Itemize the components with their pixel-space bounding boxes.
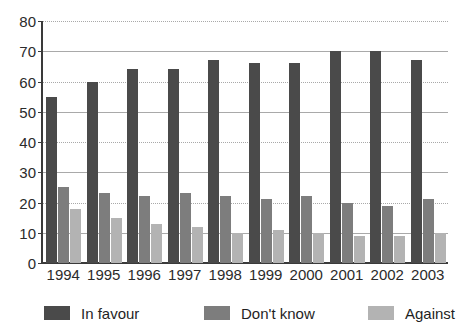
- legend-swatch-against: [368, 306, 394, 320]
- bar-1994-against: [70, 209, 81, 263]
- legend-item-against: Against: [368, 303, 455, 323]
- bar-1998-in-favour: [208, 60, 219, 263]
- x-axis-label-2003: 2003: [406, 266, 450, 284]
- bar-2001-against: [354, 236, 365, 263]
- bar-chart-figure: 01020304050607080 1994199519961997199819…: [0, 0, 463, 334]
- bar-2002-against: [394, 236, 405, 263]
- bar-1999-against: [273, 230, 284, 263]
- bar-2000-against: [313, 233, 324, 263]
- bar-1994-in-favour: [46, 97, 57, 263]
- y-axis-label-50: 50: [2, 104, 36, 119]
- x-axis-label-1997: 1997: [163, 266, 207, 284]
- bar-group-1996: [127, 21, 168, 263]
- x-axis-label-2001: 2001: [325, 266, 369, 284]
- x-axis-labels: 1994199519961997199819992000200120022003: [41, 266, 448, 288]
- legend-item-dont-know: Don't know: [204, 303, 315, 323]
- bar-1999-don-t-know: [261, 199, 272, 263]
- y-axis-label-10: 10: [2, 225, 36, 240]
- y-axis-label-80: 80: [2, 14, 36, 29]
- bar-group-2003: [411, 21, 452, 263]
- x-axis-label-2000: 2000: [284, 266, 328, 284]
- bar-1995-against: [111, 218, 122, 263]
- y-tick-0: [38, 263, 43, 264]
- bar-1999-in-favour: [249, 63, 260, 263]
- bar-group-1994: [46, 21, 87, 263]
- y-axis-label-20: 20: [2, 195, 36, 210]
- bar-1994-don-t-know: [58, 187, 69, 263]
- bar-2002-don-t-know: [382, 206, 393, 263]
- bar-1995-don-t-know: [99, 193, 110, 263]
- chart-legend: In favour Don't know Against: [41, 303, 451, 325]
- bar-1997-don-t-know: [180, 193, 191, 263]
- x-axis-label-1995: 1995: [82, 266, 126, 284]
- bar-1996-against: [151, 224, 162, 263]
- bar-2001-don-t-know: [342, 203, 353, 264]
- y-axis-label-30: 30: [2, 165, 36, 180]
- legend-swatch-dont-know: [204, 306, 230, 320]
- bar-1997-against: [192, 227, 203, 263]
- bar-2003-in-favour: [411, 60, 422, 263]
- bar-group-1998: [208, 21, 249, 263]
- legend-label-dont-know: Don't know: [241, 305, 315, 322]
- y-axis-labels: 01020304050607080: [0, 21, 36, 264]
- x-axis-label-1998: 1998: [203, 266, 247, 284]
- x-axis-label-1999: 1999: [244, 266, 288, 284]
- bar-2003-against: [435, 233, 446, 263]
- bar-1995-in-favour: [87, 82, 98, 264]
- y-axis-label-0: 0: [2, 256, 36, 271]
- y-axis-label-40: 40: [2, 135, 36, 150]
- y-axis-label-60: 60: [2, 74, 36, 89]
- bar-group-1995: [87, 21, 128, 263]
- legend-item-in-favour: In favour: [44, 303, 139, 323]
- bar-1996-don-t-know: [139, 196, 150, 263]
- legend-swatch-in-favour: [44, 306, 70, 320]
- bar-2003-don-t-know: [423, 199, 434, 263]
- bar-2000-in-favour: [289, 63, 300, 263]
- bar-1996-in-favour: [127, 69, 138, 263]
- bar-2002-in-favour: [370, 51, 381, 263]
- bar-2000-don-t-know: [301, 196, 312, 263]
- bar-group-1997: [168, 21, 209, 263]
- bar-group-1999: [249, 21, 290, 263]
- bar-1998-against: [232, 233, 243, 263]
- bar-2001-in-favour: [330, 51, 341, 263]
- bars-layer: [43, 21, 448, 263]
- bar-group-2000: [289, 21, 330, 263]
- legend-label-against: Against: [405, 305, 455, 322]
- y-axis-label-70: 70: [2, 44, 36, 59]
- x-axis-label-2002: 2002: [365, 266, 409, 284]
- x-axis-label-1994: 1994: [41, 266, 85, 284]
- bar-1998-don-t-know: [220, 196, 231, 263]
- bar-group-2002: [370, 21, 411, 263]
- legend-label-in-favour: In favour: [81, 305, 139, 322]
- x-axis-label-1996: 1996: [122, 266, 166, 284]
- bar-1997-in-favour: [168, 69, 179, 263]
- bar-group-2001: [330, 21, 371, 263]
